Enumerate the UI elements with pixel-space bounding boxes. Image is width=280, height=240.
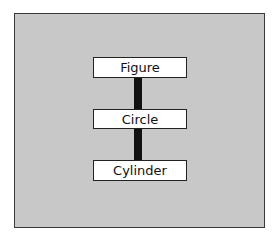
connector-figure-circle <box>134 78 142 109</box>
node-cylinder-label: Cylinder <box>113 163 167 178</box>
node-figure: Figure <box>93 57 187 78</box>
node-circle-label: Circle <box>122 112 159 127</box>
node-circle: Circle <box>93 109 187 129</box>
node-figure-label: Figure <box>120 60 160 75</box>
connector-circle-cylinder <box>134 129 142 160</box>
node-cylinder: Cylinder <box>93 160 187 181</box>
